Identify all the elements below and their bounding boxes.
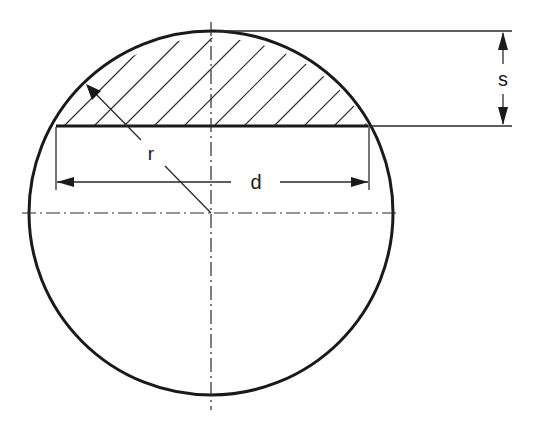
radius-dimension: r bbox=[86, 84, 211, 213]
s-dimension: s bbox=[498, 32, 508, 125]
arrowhead-up-icon bbox=[498, 32, 508, 50]
d-dimension: d bbox=[57, 171, 368, 193]
circular-segment-diagram: s d r bbox=[0, 0, 536, 425]
arrowhead-right-icon bbox=[351, 177, 368, 187]
label-d: d bbox=[250, 171, 261, 193]
arrowhead-down-icon bbox=[498, 107, 508, 125]
label-s: s bbox=[498, 68, 508, 90]
label-r: r bbox=[148, 143, 155, 164]
arrowhead-left-icon bbox=[57, 177, 74, 187]
